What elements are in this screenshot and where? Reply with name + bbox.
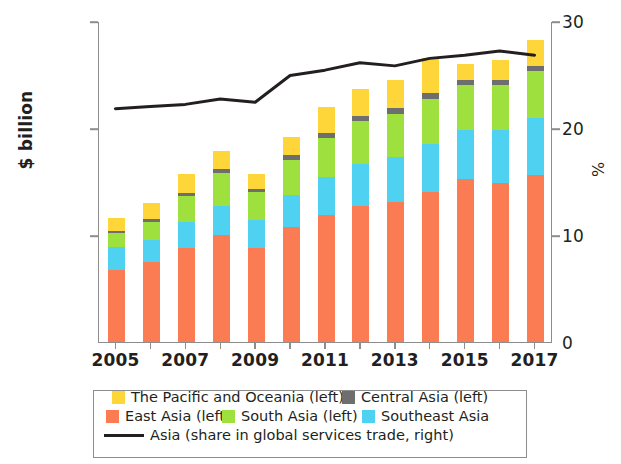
bar-segment-2015-southeast-asia — [457, 130, 474, 180]
bar-segment-2012-east-asia-left — [352, 206, 369, 342]
bar-segment-2007-the-pacific-and-oceania-left — [178, 174, 195, 193]
bars-layer — [99, 22, 551, 342]
legend-label-east-asia-left: East Asia (left) — [125, 409, 231, 424]
bar-2015 — [457, 21, 474, 342]
bar-segment-2008-central-asia-left — [213, 169, 230, 173]
bar-segment-2016-central-asia-left — [492, 80, 509, 85]
bar-2016 — [492, 21, 509, 342]
bar-segment-2012-central-asia-left — [352, 116, 369, 121]
bar-segment-2011-south-asia-left — [318, 138, 335, 178]
bar-segment-2009-central-asia-left — [248, 189, 265, 193]
bar-segment-2010-south-asia-left — [283, 160, 300, 195]
bar-segment-2012-the-pacific-and-oceania-left — [352, 89, 369, 116]
bar-segment-2011-central-asia-left — [318, 133, 335, 138]
legend-label-southeast-asia: Southeast Asia — [381, 409, 489, 424]
bar-segment-2011-east-asia-left — [318, 215, 335, 342]
y-axis-right-title: % — [589, 140, 608, 200]
x-tickmark-2006 — [150, 343, 151, 349]
legend-item-asia-share-in-global-services-trade-right[interactable]: Asia (share in global services trade, ri… — [104, 428, 454, 443]
x-tickmark-2010 — [289, 343, 290, 349]
bar-segment-2012-southeast-asia — [352, 164, 369, 206]
x-tick-label-2007: 2007 — [150, 350, 220, 370]
bar-segment-2009-the-pacific-and-oceania-left — [248, 174, 265, 189]
bar-segment-2014-south-asia-left — [422, 99, 439, 144]
bar-segment-2006-east-asia-left — [143, 262, 160, 342]
x-tickmark-2013 — [394, 343, 395, 349]
x-tickmark-2005 — [115, 343, 116, 349]
y-axis-left-title: $ billion — [16, 60, 36, 200]
bar-segment-2016-the-pacific-and-oceania-left — [492, 60, 509, 80]
legend-swatch-southeast-asia-color-icon — [362, 410, 375, 423]
bar-2014 — [422, 21, 439, 342]
bar-segment-2006-the-pacific-and-oceania-left — [143, 203, 160, 219]
bar-segment-2015-central-asia-left — [457, 80, 474, 85]
bar-segment-2011-the-pacific-and-oceania-left — [318, 107, 335, 133]
legend-item-east-asia-left[interactable]: East Asia (left) — [106, 409, 231, 424]
legend-swatch-central-asia-left-color-icon — [342, 391, 355, 404]
bar-segment-2005-southeast-asia — [108, 247, 125, 270]
bar-2017 — [527, 21, 544, 342]
bar-segment-2013-east-asia-left — [387, 202, 404, 342]
x-tickmark-2015 — [464, 343, 465, 349]
bar-segment-2008-southeast-asia — [213, 206, 230, 235]
legend-item-the-pacific-and-oceania-left[interactable]: The Pacific and Oceania (left) — [112, 390, 344, 405]
bar-2006 — [143, 21, 160, 342]
plot-area — [98, 22, 552, 343]
bar-segment-2017-central-asia-left — [527, 66, 544, 71]
x-tickmark-2012 — [359, 343, 360, 349]
chart-legend: The Pacific and Oceania (left)Central As… — [93, 390, 527, 458]
legend-label-central-asia-left: Central Asia (left) — [361, 390, 488, 405]
bar-segment-2016-east-asia-left — [492, 183, 509, 342]
bar-segment-2010-central-asia-left — [283, 155, 300, 159]
bar-2009 — [248, 21, 265, 342]
bar-2011 — [318, 21, 335, 342]
legend-swatch-south-asia-left-color-icon — [222, 410, 235, 423]
bar-segment-2005-south-asia-left — [108, 233, 125, 247]
legend-item-southeast-asia[interactable]: Southeast Asia — [362, 409, 489, 424]
bar-segment-2009-south-asia-left — [248, 192, 265, 220]
bar-2007 — [178, 21, 195, 342]
bar-segment-2006-southeast-asia — [143, 240, 160, 262]
x-tickmark-2017 — [534, 343, 535, 349]
x-tick-label-2017: 2017 — [500, 350, 570, 370]
legend-item-central-asia-left[interactable]: Central Asia (left) — [342, 390, 488, 405]
services-trade-chart: $ billion % 01,0002,0003,000 0102030 200… — [0, 0, 621, 464]
bar-segment-2008-east-asia-left — [213, 235, 230, 342]
bar-segment-2010-east-asia-left — [283, 227, 300, 342]
bar-segment-2010-southeast-asia — [283, 195, 300, 227]
bar-segment-2007-east-asia-left — [178, 248, 195, 342]
bar-segment-2008-the-pacific-and-oceania-left — [213, 151, 230, 169]
bar-segment-2013-central-asia-left — [387, 108, 404, 113]
bar-segment-2010-the-pacific-and-oceania-left — [283, 137, 300, 156]
y-tick-right-30: 30 — [562, 12, 608, 32]
bar-segment-2015-south-asia-left — [457, 85, 474, 129]
x-tickmark-2016 — [499, 343, 500, 349]
x-tick-label-2013: 2013 — [360, 350, 430, 370]
legend-label-asia-share-in-global-services-trade-right: Asia (share in global services trade, ri… — [150, 428, 454, 443]
y-tickmark-left — [90, 128, 98, 130]
legend-swatch-the-pacific-and-oceania-left-color-icon — [112, 391, 125, 404]
bar-segment-2016-south-asia-left — [492, 85, 509, 130]
x-tickmark-2011 — [324, 343, 325, 349]
bar-segment-2017-southeast-asia — [527, 118, 544, 175]
bar-segment-2009-southeast-asia — [248, 220, 265, 248]
bar-segment-2014-the-pacific-and-oceania-left — [422, 58, 439, 93]
x-tick-label-2005: 2005 — [80, 350, 150, 370]
bar-segment-2013-southeast-asia — [387, 157, 404, 202]
x-tickmark-2014 — [429, 343, 430, 349]
bar-2013 — [387, 21, 404, 342]
bar-segment-2015-the-pacific-and-oceania-left — [457, 64, 474, 80]
legend-item-south-asia-left[interactable]: South Asia (left) — [222, 409, 358, 424]
y-tick-right-20: 20 — [562, 119, 608, 139]
bar-segment-2009-east-asia-left — [248, 248, 265, 342]
x-tick-label-2009: 2009 — [220, 350, 290, 370]
bar-segment-2005-the-pacific-and-oceania-left — [108, 218, 125, 231]
bar-2008 — [213, 21, 230, 342]
bar-segment-2014-southeast-asia — [422, 144, 439, 192]
x-tickmark-2008 — [220, 343, 221, 349]
bar-segment-2012-south-asia-left — [352, 121, 369, 164]
x-tickmark-2009 — [254, 343, 255, 349]
bar-segment-2006-south-asia-left — [143, 222, 160, 240]
bar-segment-2014-central-asia-left — [422, 93, 439, 99]
y-tickmark-right — [552, 128, 560, 130]
